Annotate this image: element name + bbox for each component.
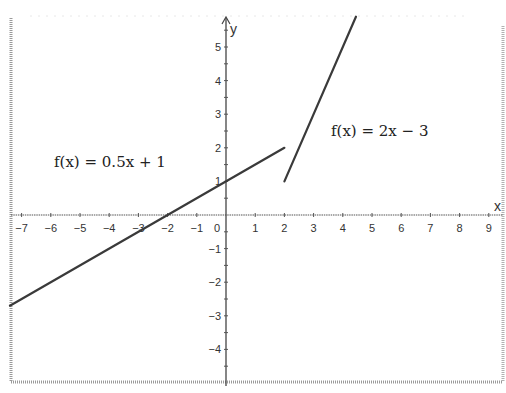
- plot-frame: [11, 16, 503, 382]
- fn2-label: f(x) = 2x − 3: [331, 122, 428, 140]
- x-tick-label: −7: [15, 222, 28, 234]
- x-tick-label: 1: [252, 222, 258, 234]
- axis-tick-labels: −7−6−5−4−3−2−1123456789−4−3−2−112345: [15, 41, 492, 355]
- axes: [11, 17, 503, 386]
- x-tick-label: 8: [457, 222, 463, 234]
- y-tick-label: 5: [215, 41, 221, 53]
- y-tick-label: −1: [208, 243, 221, 255]
- fn1-label: f(x) = 0.5x + 1: [54, 153, 166, 171]
- x-tick-label: −4: [103, 222, 116, 234]
- y-tick-label: −2: [208, 276, 221, 288]
- x-tick-label: −1: [191, 222, 204, 234]
- y-tick-label: −4: [208, 343, 221, 355]
- x-tick-label: 3: [311, 222, 317, 234]
- x-axis-label: x: [494, 198, 501, 214]
- x-tick-label: −5: [74, 222, 87, 234]
- y-tick-label: 2: [215, 142, 221, 154]
- origin-label: 0: [214, 222, 220, 234]
- series-line: [284, 17, 356, 182]
- axis-ticks: [22, 30, 489, 366]
- x-tick-label: 2: [281, 222, 287, 234]
- x-tick-label: −2: [161, 222, 174, 234]
- function-graph: −7−6−5−4−3−2−1123456789−4−3−2−112345 y x…: [0, 0, 506, 393]
- x-tick-label: 5: [369, 222, 375, 234]
- x-tick-label: 9: [486, 222, 492, 234]
- x-tick-label: 7: [427, 222, 433, 234]
- y-tick-label: 4: [215, 75, 221, 87]
- y-tick-label: −3: [208, 310, 221, 322]
- y-tick-label: 3: [215, 108, 221, 120]
- x-tick-label: −6: [45, 222, 58, 234]
- x-tick-label: 4: [340, 222, 346, 234]
- x-tick-label: 6: [398, 222, 404, 234]
- y-axis-label: y: [230, 21, 237, 37]
